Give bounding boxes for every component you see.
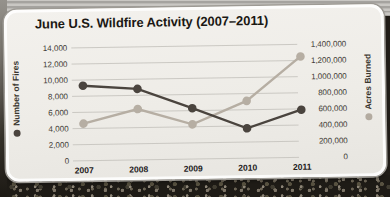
chart-title: June U.S. Wildfire Activity (2007–2011) (35, 13, 268, 32)
data-point-number-of-fires (297, 105, 306, 114)
y-axis-tick-right: 600,000 (318, 104, 348, 113)
y-axis-tick-right: 1,000,000 (311, 72, 347, 82)
wildfire-line-chart: 14,0001,400,00012,0001,200,00010,0001,00… (7, 34, 383, 182)
data-point-acres-burned (133, 105, 142, 114)
y-axis-tick-left: 8,000 (48, 92, 69, 101)
x-axis-label: 2007 (75, 165, 94, 175)
data-point-number-of-fires (243, 124, 252, 133)
gridline (72, 93, 298, 97)
gridline (73, 141, 299, 145)
x-axis-label: 2008 (129, 164, 148, 174)
gridline (73, 125, 299, 129)
right-axis-title-text: Acres Burned (362, 54, 373, 110)
series-line-acres-burned (82, 56, 301, 126)
right-axis-title: Acres Burned (360, 32, 376, 142)
gridline (72, 61, 298, 65)
y-axis-tick-right: 0 (343, 152, 348, 161)
x-axis-label: 2009 (184, 163, 203, 173)
y-axis-tick-right: 200,000 (319, 136, 349, 145)
data-point-number-of-fires (133, 85, 142, 94)
y-axis-tick-left: 4,000 (48, 124, 69, 133)
x-axis-label: 2010 (238, 163, 257, 173)
data-point-acres-burned (188, 120, 197, 129)
chart-card: June U.S. Wildfire Activity (2007–2011) … (4, 4, 387, 182)
data-point-acres-burned (79, 119, 88, 128)
data-point-number-of-fires (188, 104, 197, 113)
y-axis-tick-right: 1,400,000 (311, 39, 347, 49)
y-axis-tick-left: 10,000 (43, 76, 68, 85)
y-axis-tick-right: 800,000 (318, 88, 348, 97)
y-axis-tick-left: 14,000 (43, 44, 68, 53)
acres-legend-dot-icon (365, 114, 372, 121)
x-axis-label: 2011 (293, 162, 312, 172)
gridline (71, 44, 297, 48)
y-axis-tick-left: 12,000 (43, 60, 68, 69)
gridline (72, 77, 298, 81)
y-axis-tick-left: 0 (65, 157, 70, 166)
y-axis-tick-right: 400,000 (319, 120, 349, 129)
data-point-number-of-fires (79, 81, 88, 90)
gridline (72, 109, 298, 113)
y-axis-tick-right: 1,200,000 (311, 55, 347, 65)
y-axis-tick-left: 2,000 (49, 141, 70, 150)
y-axis-tick-left: 6,000 (48, 108, 69, 117)
gridline (73, 157, 299, 161)
